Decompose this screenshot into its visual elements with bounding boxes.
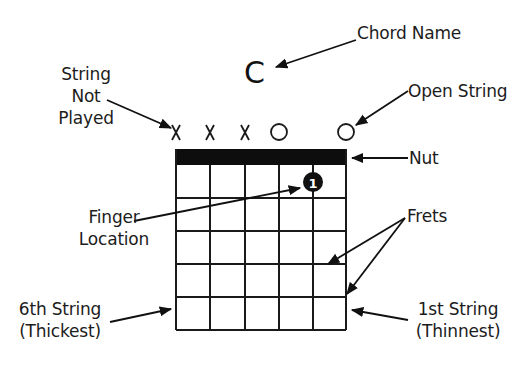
label-line: Played — [56, 107, 116, 129]
arrow-finger-location — [134, 188, 300, 221]
label-nut: Nut — [409, 147, 439, 169]
arrow-chord-name — [276, 40, 356, 67]
arrow-frets-2 — [347, 218, 405, 294]
label-line: 6th String — [10, 298, 110, 320]
x-marker-icon — [241, 125, 249, 140]
label-line: (Thickest) — [10, 320, 110, 342]
label-line: Finger — [70, 206, 158, 228]
label-line: 1st String — [408, 298, 508, 320]
finger-dot: 1 — [303, 172, 323, 192]
label-line: Not — [56, 85, 116, 107]
x-marker-icon — [206, 125, 214, 140]
label-finger-location: Finger Location — [70, 206, 158, 250]
label-line: String — [56, 63, 116, 85]
label-line: (Thinnest) — [408, 320, 508, 342]
arrow-frets-1 — [328, 218, 405, 264]
string-markers — [172, 124, 354, 140]
svg-text:1: 1 — [308, 176, 317, 191]
label-sixth-string: 6th String (Thickest) — [10, 298, 110, 342]
x-marker-icon — [172, 125, 180, 140]
chord-diagram: 1 C Chord Name String Not Pla — [0, 0, 531, 367]
chord-name: C — [244, 56, 265, 90]
label-open-string: Open String — [408, 80, 507, 102]
label-chord-name: Chord Name — [357, 22, 461, 44]
label-line: Location — [70, 228, 158, 250]
arrow-first-string — [352, 310, 408, 320]
open-string-icon — [271, 124, 287, 140]
arrow-string-not-played — [107, 100, 171, 128]
arrow-sixth-string — [110, 309, 171, 322]
frets — [176, 198, 346, 330]
open-string-icon — [338, 124, 354, 140]
label-string-not-played: String Not Played — [56, 63, 116, 129]
label-first-string: 1st String (Thinnest) — [408, 298, 508, 342]
label-frets: Frets — [407, 205, 447, 227]
nut — [176, 149, 347, 165]
arrow-open-string — [356, 91, 408, 125]
